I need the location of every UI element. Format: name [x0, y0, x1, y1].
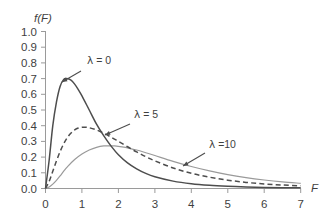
y-axis-title: f(F) [34, 12, 52, 24]
x-axis-ticks [46, 189, 301, 194]
y-tick-label: 0.7 [21, 73, 37, 85]
annotation-lambda-5: λ = 5 [134, 108, 158, 120]
arrowhead-lambda-5 [105, 131, 111, 135]
y-axis-tick-labels: 1.0 0.9 0.8 0.7 0.6 0.5 0.4 0.3 0.2 0.1 … [21, 26, 38, 195]
annotation-lambda-0: λ = 0 [87, 54, 111, 66]
annotation-arrowheads [62, 78, 189, 166]
x-tick-label: 5 [225, 198, 231, 210]
x-tick-label: 0 [42, 198, 48, 210]
curve-lambda-0 [46, 78, 301, 188]
annotation-lambda-0-text: = 0 [93, 54, 111, 66]
annotation-lambda-10: λ =10 [209, 138, 236, 150]
y-tick-label: 0.2 [21, 151, 37, 163]
x-tick-label: 3 [152, 198, 158, 210]
y-axis-ticks [41, 32, 46, 189]
y-tick-label: 0.9 [21, 41, 37, 53]
annotation-lambda-10-text: =10 [215, 138, 236, 150]
y-tick-label: 0.4 [21, 120, 38, 132]
y-tick-label: 0.0 [21, 183, 37, 195]
y-tick-label: 0.8 [21, 57, 37, 69]
x-axis-tick-labels: 0 1 2 3 4 5 6 7 [42, 198, 304, 210]
y-tick-label: 0.3 [21, 135, 37, 147]
x-tick-label: 4 [188, 198, 195, 210]
y-tick-label: 0.6 [21, 88, 37, 100]
x-tick-label: 1 [79, 198, 85, 210]
noncentral-f-distribution-chart: f(F) F 1.0 0.9 0.8 0.7 0.6 0.5 0.4 0.3 0… [0, 0, 326, 220]
x-axis-title: F [311, 182, 319, 194]
y-tick-label: 1.0 [21, 26, 37, 38]
x-tick-label: 2 [115, 198, 121, 210]
chart-canvas: f(F) F 1.0 0.9 0.8 0.7 0.6 0.5 0.4 0.3 0… [0, 0, 326, 220]
annotation-lambda-5-text: = 5 [140, 108, 158, 120]
x-tick-label: 7 [297, 198, 303, 210]
data-curves [46, 78, 301, 188]
x-tick-label: 6 [261, 198, 267, 210]
y-tick-label: 0.5 [21, 104, 37, 116]
y-tick-label: 0.1 [21, 167, 37, 179]
